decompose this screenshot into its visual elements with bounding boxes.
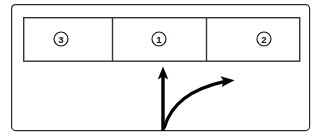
cell-marker-left: 3 xyxy=(54,32,68,46)
cell-marker-label-right: 2 xyxy=(261,34,266,45)
cell-marker-middle: 1 xyxy=(152,32,166,46)
diagram-canvas: 3 1 2 xyxy=(0,0,322,140)
cell-marker-label-left: 3 xyxy=(58,34,63,45)
cell-marker-label-middle: 1 xyxy=(156,34,162,45)
diagram-figure: 3 1 2 xyxy=(0,0,322,140)
cell-marker-right: 2 xyxy=(257,32,271,46)
